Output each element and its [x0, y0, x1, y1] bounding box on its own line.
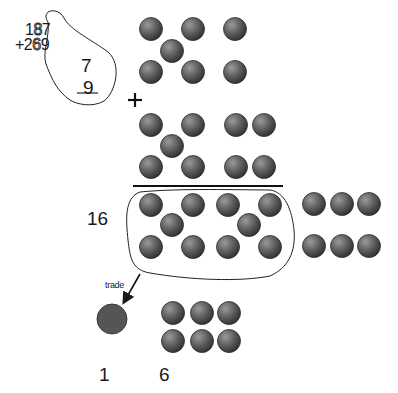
counter-ball: [358, 193, 381, 216]
counter-ball: [224, 18, 247, 41]
counter-ball: [162, 302, 185, 325]
counter-ball: [182, 114, 205, 137]
counter-ball: [161, 135, 184, 158]
counter-ball: [140, 236, 163, 259]
bottom-addend-sign: +2: [15, 36, 32, 53]
ones-digit-bottom: 9: [83, 78, 94, 97]
sum-of-ones-label: 16: [87, 209, 108, 228]
counter-ball: [162, 330, 185, 353]
bottom-addend-tens: 6: [32, 36, 40, 53]
counter-ball: [331, 235, 354, 258]
counter-ball: [140, 18, 163, 41]
counter-group-7: [140, 18, 247, 84]
counter-group-9: [140, 114, 276, 179]
place-value-diagram: [0, 0, 398, 393]
traded-ten-counter: [97, 304, 127, 334]
counter-ball: [217, 236, 240, 259]
counter-ball: [303, 193, 326, 216]
counter-ball: [140, 114, 163, 137]
counter-ball: [218, 330, 241, 353]
ones-digit-top: 7: [81, 56, 92, 75]
counter-ball: [225, 156, 248, 179]
trade-label: trade: [105, 281, 124, 290]
counter-ball: [331, 193, 354, 216]
counter-ball: [182, 61, 205, 84]
counter-ball: [191, 330, 214, 353]
counter-ball: [253, 114, 276, 137]
counter-ball: [161, 214, 184, 237]
counter-ball: [191, 302, 214, 325]
counter-ball: [303, 235, 326, 258]
counter-ball: [140, 194, 163, 217]
counter-ball: [182, 236, 205, 259]
counter-ball: [161, 40, 184, 63]
counter-ball: [259, 194, 282, 217]
ones-result: 6: [159, 365, 170, 384]
counter-ball: [140, 61, 163, 84]
counter-ball: [182, 18, 205, 41]
counter-ones-remaining: [162, 302, 241, 353]
counter-ball: [358, 235, 381, 258]
bottom-addend-ones: 9: [41, 36, 49, 53]
counter-group-16-outside: [303, 193, 381, 258]
counter-group-16-circled: [140, 194, 282, 259]
counter-ball: [253, 156, 276, 179]
counter-ball: [218, 302, 241, 325]
bottom-addend: +269: [15, 37, 49, 53]
counter-ball: [225, 114, 248, 137]
plus-sign-icon: [128, 93, 142, 107]
counter-ball: [238, 214, 261, 237]
counter-ball: [182, 156, 205, 179]
counter-ball: [259, 236, 282, 259]
counter-ball: [140, 156, 163, 179]
trade-arrow: [124, 274, 140, 302]
counter-ball: [217, 194, 240, 217]
counter-ball: [224, 61, 247, 84]
counter-ball: [182, 194, 205, 217]
tens-result: 1: [99, 365, 110, 384]
